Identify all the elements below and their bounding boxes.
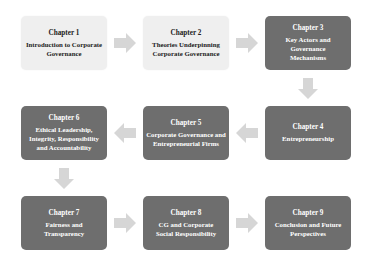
chapter-2-number: Chapter 2 bbox=[171, 29, 202, 38]
chapter-5-box: Chapter 5 Corporate Governance and Entre… bbox=[143, 106, 229, 160]
arrow-right-icon bbox=[114, 33, 136, 53]
arrow-right-icon bbox=[236, 33, 258, 53]
chapter-6-title: Ethical Leadership, Integrity, Responsib… bbox=[23, 125, 105, 152]
chapter-8-box: Chapter 8 CG and Corporate Social Respon… bbox=[143, 196, 229, 250]
arrow-left-icon bbox=[114, 123, 136, 143]
chapter-3-title: Key Actors and Governance Mechanisms bbox=[277, 35, 339, 62]
chapter-7-box: Chapter 7 Fairness and Transparency bbox=[21, 196, 107, 250]
chapter-1-number: Chapter 1 bbox=[49, 29, 80, 38]
arrow-right-icon bbox=[236, 213, 258, 233]
chapter-6-box: Chapter 6 Ethical Leadership, Integrity,… bbox=[21, 106, 107, 160]
chapter-1-box: Chapter 1 Introduction to Corporate Gove… bbox=[21, 16, 107, 70]
chapter-4-title: Entrepreneurship bbox=[266, 134, 350, 143]
chapter-6-number: Chapter 6 bbox=[49, 114, 80, 123]
arrow-right-icon bbox=[114, 213, 136, 233]
chapter-3-number: Chapter 3 bbox=[293, 24, 324, 33]
chapter-8-title: CG and Corporate Social Responsibility bbox=[150, 220, 222, 238]
chapter-4-box: Chapter 4 Entrepreneurship bbox=[265, 106, 351, 160]
chapter-7-title: Fairness and Transparency bbox=[39, 220, 89, 238]
chapter-2-title: Theories Underpinning Corporate Governan… bbox=[144, 40, 228, 58]
chapter-3-box: Chapter 3 Key Actors and Governance Mech… bbox=[265, 16, 351, 70]
chapter-7-number: Chapter 7 bbox=[49, 209, 80, 218]
chapter-4-number: Chapter 4 bbox=[293, 123, 324, 132]
chapter-9-box: Chapter 9 Conclusion and Future Perspect… bbox=[265, 196, 351, 250]
chapter-5-number: Chapter 5 bbox=[171, 119, 202, 128]
chapter-2-box: Chapter 2 Theories Underpinning Corporat… bbox=[143, 16, 229, 70]
chapter-8-number: Chapter 8 bbox=[171, 209, 202, 218]
chapter-9-number: Chapter 9 bbox=[293, 209, 324, 218]
arrow-left-icon bbox=[236, 123, 258, 143]
chapter-1-title: Introduction to Corporate Governance bbox=[25, 40, 103, 58]
arrow-down-icon bbox=[298, 78, 318, 99]
chapter-9-title: Conclusion and Future Perspectives bbox=[267, 220, 349, 238]
arrow-down-icon bbox=[54, 168, 74, 189]
chapter-5-title: Corporate Governance and Entrepreneurial… bbox=[144, 130, 228, 148]
